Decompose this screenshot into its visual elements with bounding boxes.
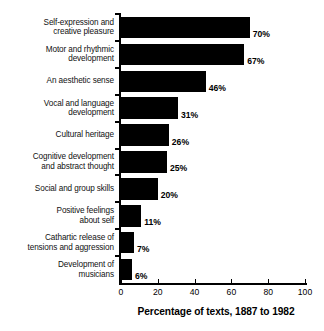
x-axis-tick: [268, 279, 269, 284]
category-label-line: Cognitive development: [0, 152, 114, 162]
y-axis-tick: [115, 201, 120, 203]
category-label-line: tensions and aggression: [0, 243, 114, 253]
category-label-line: Vocal and language: [0, 99, 114, 109]
category-label-line: about self: [0, 216, 114, 226]
bar: [121, 259, 132, 281]
x-axis-tick: [121, 279, 122, 284]
category-label-line: development: [0, 54, 114, 64]
bar: [121, 232, 134, 254]
x-axis-tick-label: 40: [190, 287, 200, 297]
bar-chart: Self-expression andcreative pleasureMoto…: [0, 0, 324, 331]
category-label-line: An aesthetic sense: [0, 76, 114, 86]
x-axis-tick-label: 0: [119, 287, 124, 297]
bar: [121, 205, 141, 227]
x-axis-tick-label: 60: [227, 287, 237, 297]
bar-value-label: 46%: [209, 84, 226, 93]
category-label: An aesthetic sense: [0, 76, 114, 86]
x-axis-tick-label: 80: [263, 287, 273, 297]
bar: [121, 124, 169, 146]
y-axis-tick: [115, 13, 120, 15]
x-axis-title: Percentage of texts, 1887 to 1982: [121, 306, 311, 317]
x-axis-line: [119, 283, 307, 285]
bar: [121, 151, 167, 173]
category-label-line: Motor and rhythmic: [0, 45, 114, 55]
bar: [121, 71, 206, 93]
y-axis-tick: [115, 40, 120, 42]
bar-value-label: 26%: [172, 138, 189, 147]
y-axis-tick: [115, 148, 120, 150]
bar-value-label: 6%: [135, 272, 147, 281]
x-axis-tick-label: 20: [153, 287, 163, 297]
bar: [121, 178, 158, 200]
category-label: Positive feelingsabout self: [0, 206, 114, 225]
x-axis-tick: [305, 279, 306, 284]
category-label: Vocal and languagedevelopment: [0, 99, 114, 118]
category-label: Cathartic release oftensions and aggress…: [0, 233, 114, 252]
plot-area: 70%67%46%31%26%25%20%11%7%6%: [121, 14, 305, 283]
y-axis-tick: [115, 121, 120, 123]
bar: [121, 97, 178, 119]
bar: [121, 44, 244, 66]
category-label-line: development: [0, 108, 114, 118]
y-axis-tick: [115, 255, 120, 257]
category-label-line: and abstract thought: [0, 162, 114, 172]
x-axis-tick: [231, 279, 232, 284]
category-label-line: musicians: [0, 270, 114, 280]
category-label: Cultural heritage: [0, 130, 114, 140]
category-label-line: Positive feelings: [0, 206, 114, 216]
category-label: Self-expression andcreative pleasure: [0, 18, 114, 37]
category-label: Development ofmusicians: [0, 260, 114, 279]
category-label: Social and group skills: [0, 184, 114, 194]
x-axis-tick: [195, 279, 196, 284]
y-axis-tick: [115, 174, 120, 176]
category-label-line: creative pleasure: [0, 27, 114, 37]
y-axis-tick: [115, 94, 120, 96]
bar-value-label: 70%: [253, 30, 270, 39]
y-axis-tick: [115, 67, 120, 69]
x-axis-tick: [158, 279, 159, 284]
bar-value-label: 31%: [181, 111, 198, 120]
y-axis-tick: [115, 228, 120, 230]
category-label-line: Social and group skills: [0, 184, 114, 194]
category-label-line: Cathartic release of: [0, 233, 114, 243]
bar-value-label: 20%: [161, 191, 178, 200]
bar-value-label: 67%: [247, 57, 264, 66]
bar-value-label: 11%: [144, 218, 161, 227]
category-label-line: Development of: [0, 260, 114, 270]
bar-value-label: 25%: [170, 164, 187, 173]
category-label-line: Cultural heritage: [0, 130, 114, 140]
category-label-line: Self-expression and: [0, 18, 114, 28]
bar: [121, 17, 250, 39]
category-label: Motor and rhythmicdevelopment: [0, 45, 114, 64]
x-axis-tick-label: 100: [298, 287, 312, 297]
category-axis-labels: Self-expression andcreative pleasureMoto…: [0, 14, 118, 283]
bar-value-label: 7%: [137, 245, 149, 254]
category-label: Cognitive developmentand abstract though…: [0, 152, 114, 171]
